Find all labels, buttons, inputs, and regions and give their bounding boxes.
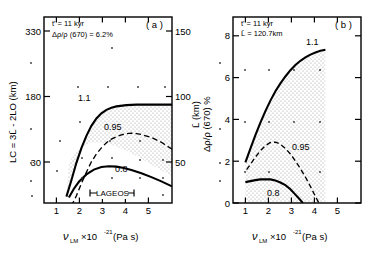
xtick-a-1: 2 <box>77 205 82 216</box>
xlabel-a-exp: -21 <box>104 229 113 235</box>
curve-label-a-0.95: 0.95 <box>104 122 122 132</box>
ytick-b-8: 8 <box>225 30 230 41</box>
ytick-b-0: 0 <box>225 198 230 209</box>
panel-a-label: ( a ) <box>146 19 163 30</box>
panel-b-annotation-tprime: t' = 11 kyr <box>241 19 273 28</box>
xtick-a-0: 1 <box>54 205 59 216</box>
curve-label-a-0.8: 0.8 <box>115 164 128 174</box>
ytick-a-330: 330 <box>25 26 41 37</box>
xlabel-b-mult: ×10 <box>270 231 286 242</box>
xtick-b-3: 4 <box>312 205 317 216</box>
ytick-a-180: 180 <box>25 91 41 102</box>
xtick-b-4: 5 <box>335 205 340 216</box>
xlabel-a-nu: ν <box>63 230 69 242</box>
panel-b-ylabel: Δρ/ρ (670) % <box>201 96 212 152</box>
xlabel-b-unit: (Pa s) <box>302 231 327 242</box>
xlabel-a-mult: ×10 <box>81 231 97 242</box>
xlabel-a-unit: (Pa s) <box>113 231 138 242</box>
curve-label-a-1.1: 1.1 <box>78 93 91 103</box>
xtick-a-3: 4 <box>123 205 128 216</box>
xtick-a-4: 5 <box>146 205 151 216</box>
ytick-a-r100: 100 <box>175 91 191 102</box>
ytick-b-4: 4 <box>225 114 230 125</box>
xlabel-b-exp: -21 <box>293 229 302 235</box>
panel-b-annotation-lbar: L̄ = 120.7km <box>241 29 282 38</box>
curve-label-b-1.1: 1.1 <box>306 37 319 47</box>
xtick-b-2: 3 <box>289 205 294 216</box>
xlabel-b-nu: ν <box>252 230 258 242</box>
panel-a-ylabel-left: LC = 3L̄ - 2LO (km) <box>7 81 18 163</box>
curve-label-b-0.8: 0.8 <box>267 188 280 198</box>
xtick-b-0: 1 <box>243 205 248 216</box>
ytick-b-2: 2 <box>225 156 230 167</box>
panel-a-annotation-deltarho: Δρ/ρ (670) = 6.2% <box>52 30 113 39</box>
panel-b-label: ( b ) <box>335 19 352 30</box>
ytick-b-6: 6 <box>225 72 230 83</box>
xtick-a-2: 3 <box>100 205 105 216</box>
panel-a-annotation-tprime: t' = 11 kyr <box>52 19 84 28</box>
xlabel-a-sub: LM <box>70 238 78 244</box>
xtick-b-1: 2 <box>266 205 271 216</box>
ytick-a-30: 30 <box>30 157 41 168</box>
lageos-label: LAGEOS <box>96 189 129 198</box>
panel-a-ylabel-right: L̄ (km) <box>190 101 201 128</box>
curve-label-b-0.95: 0.95 <box>292 142 310 152</box>
ytick-a-r150: 150 <box>175 26 191 37</box>
figure-root: 1 2 3 4 5 330 180 30 150 100 50 <box>0 0 371 259</box>
xlabel-b-sub: LM <box>259 238 267 244</box>
ytick-a-r50: 50 <box>175 157 186 168</box>
